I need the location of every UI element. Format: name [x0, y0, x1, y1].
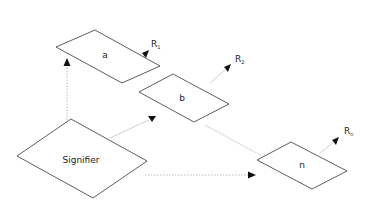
node-a-label: a: [102, 51, 108, 60]
arrowhead-icon: [148, 116, 156, 122]
edge-b-to-n: [205, 125, 262, 156]
diagram-canvas: [0, 0, 369, 207]
output-r2-label: R2: [235, 55, 244, 65]
edge-signifier-to-b: [110, 120, 149, 138]
arrowhead-icon: [224, 64, 231, 72]
arrowhead-icon: [64, 58, 71, 66]
arrowhead-icon: [332, 137, 339, 145]
node-a-shape: [56, 30, 160, 83]
arrowhead-icon: [248, 172, 256, 179]
output-rn-label: Rn: [344, 127, 353, 137]
edge-n-to-rn: [320, 143, 333, 153]
node-b-label: b: [179, 94, 185, 103]
edge-b-to-r2: [210, 70, 225, 83]
output-r1-label: R1: [151, 40, 160, 50]
signifier-diagram: a b n Signifier R1 R2 Rn: [0, 0, 369, 207]
node-signifier-label: Signifier: [62, 156, 99, 165]
node-n-label: n: [299, 161, 305, 170]
